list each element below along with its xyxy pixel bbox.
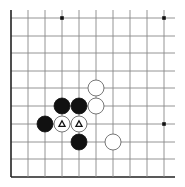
white-stone [105,134,121,150]
black-stone [54,98,70,114]
black-stone [37,116,53,132]
white-stone-triangle-marked [54,116,70,132]
go-board [0,0,185,187]
star-point-icon [162,16,166,20]
star-point-icon [162,122,166,126]
black-stone [71,98,87,114]
white-stone [88,98,104,114]
white-stone [88,80,104,96]
star-point-icon [60,16,64,20]
white-stone-triangle-marked [71,116,87,132]
black-stone [71,134,87,150]
